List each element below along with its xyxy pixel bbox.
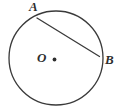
circle-outline <box>9 11 103 105</box>
geometry-figure: A B O <box>0 0 124 112</box>
point-label-a: A <box>29 0 38 13</box>
point-label-b: B <box>105 53 114 66</box>
center-point-dot <box>53 58 57 62</box>
center-label-o: O <box>37 51 46 64</box>
